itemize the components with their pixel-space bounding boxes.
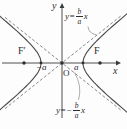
focus-left-point [22,61,25,64]
fraction-numerator: b [73,102,80,111]
focus-right-label: F [94,46,100,56]
fraction-denominator: a [75,111,79,119]
leader-line-top-equation [88,27,97,35]
vertex-right-label: a [74,63,79,72]
vertex-right-point [82,62,85,65]
focus-right-point [98,61,101,64]
equation-top-fraction: ba [76,8,83,25]
equation-bottom-fraction: ba [73,102,80,119]
equation-top-lhs: y= [65,12,75,21]
origin-label: O [63,69,70,78]
equation-top-rhs: x [84,12,88,21]
equation-bottom-rhs: x [81,106,85,115]
fraction-numerator: b [76,8,83,17]
hyperbola-diagram: y x O F′ F −a a y=bax y=−bax [0,0,127,129]
equation-bottom-lhs: y=− [56,106,72,115]
focus-left-label: F′ [18,46,26,56]
equation-top-asymptote: y=bax [65,8,88,25]
leader-line-bottom-equation [75,73,80,101]
origin-point [60,61,63,64]
x-axis-label: x [113,66,117,76]
y-axis-label: y [52,1,56,11]
y-axis-arrow-icon [60,3,65,8]
fraction-denominator: a [78,17,82,25]
vertex-left-label: −a [36,63,47,72]
equation-bottom-asymptote: y=−bax [56,102,85,119]
